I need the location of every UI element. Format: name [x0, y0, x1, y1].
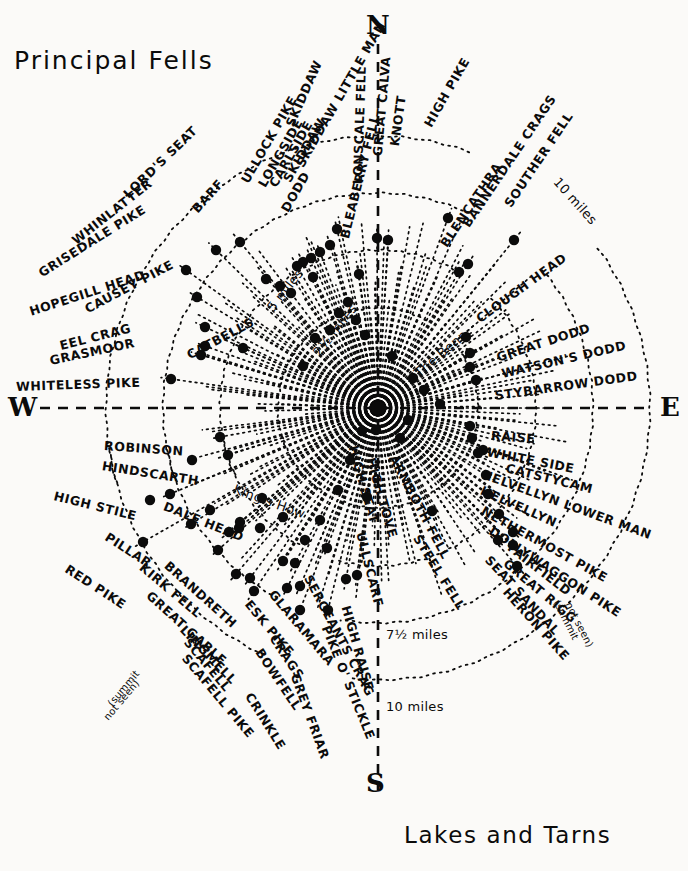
distance-ring-label: 10 miles [386, 700, 444, 713]
summit-dot [315, 515, 325, 525]
summit-dot [211, 245, 221, 255]
summit-dot [249, 586, 259, 596]
summit-dot [387, 351, 397, 361]
summit-dot [308, 272, 318, 282]
summit-dot [298, 361, 308, 371]
summit-dot [419, 385, 429, 395]
summit-dot [278, 556, 288, 566]
summit-dot [463, 259, 473, 269]
summit-dot [300, 535, 310, 545]
summit-dot [395, 433, 405, 443]
summit-dot [383, 235, 393, 245]
summit-dot [181, 265, 191, 275]
summit-dot [454, 267, 464, 277]
summit-dot [200, 322, 210, 332]
fell-label: RAISE [491, 430, 536, 446]
summit-dot [372, 233, 382, 243]
summit-dot [403, 415, 413, 425]
summit-dot [360, 330, 370, 340]
summit-dot [215, 432, 225, 442]
summit-dot [352, 570, 362, 580]
summit-dot [341, 574, 351, 584]
summit-dot [166, 374, 176, 384]
panorama-sheet: Principal Fells Lakes and Tarns N S W E … [0, 0, 688, 871]
summit-dot [255, 523, 265, 533]
summit-dot [465, 421, 475, 431]
summit-dot [261, 274, 271, 284]
summit-dot [509, 235, 519, 245]
summit-dot [290, 558, 300, 568]
summit-dot [322, 543, 332, 553]
summit-dot [282, 583, 292, 593]
summit-dot [145, 495, 155, 505]
sight-line-rays [134, 209, 572, 620]
summit-dot [192, 292, 202, 302]
summit-dot [325, 240, 335, 250]
summit-dot [467, 433, 477, 443]
summit-dot [315, 247, 325, 257]
summit-dot [435, 399, 445, 409]
radial-panorama-diagram [0, 0, 688, 871]
viewpoint-hub [371, 401, 385, 415]
summit-dot [371, 425, 381, 435]
summit-dot [354, 269, 364, 279]
summit-dot [138, 537, 148, 547]
summit-dot [333, 485, 343, 495]
summit-dot [235, 237, 245, 247]
summit-dot [238, 343, 248, 353]
summit-dot [471, 375, 481, 385]
summit-dot [357, 426, 367, 436]
summit-dot [465, 348, 475, 358]
distance-ring-label: 7½ miles [386, 628, 448, 641]
summit-dot [465, 362, 475, 372]
summit-dot [187, 455, 197, 465]
summit-dot [245, 573, 255, 583]
summit-dot [473, 448, 483, 458]
summit-dot [213, 545, 223, 555]
summit-dot [223, 450, 233, 460]
summit-dot [231, 569, 241, 579]
